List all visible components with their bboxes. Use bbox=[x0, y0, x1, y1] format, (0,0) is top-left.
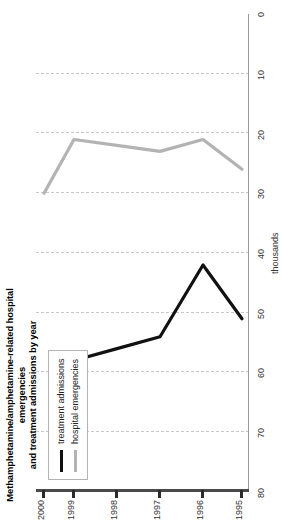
value-tick-label-50: 50 bbox=[256, 309, 266, 319]
value-tick-label-30: 30 bbox=[256, 189, 266, 199]
legend-item-hospital-emergencies[interactable]: hospital emergencies bbox=[68, 358, 82, 472]
chart-title-line-1: Methamphetamine/amphetamine-related hosp… bbox=[4, 288, 27, 501]
tick-1999 bbox=[72, 490, 75, 498]
tick-1997 bbox=[158, 490, 161, 498]
series-line-treatment-admissions bbox=[74, 265, 242, 361]
value-tick-label-80: 80 bbox=[256, 488, 266, 498]
rotated-figure: Methamphetamine/amphetamine-related hosp… bbox=[0, 0, 282, 526]
value-tick-label-60: 60 bbox=[256, 368, 266, 378]
category-tick-label-1997: 1997 bbox=[152, 500, 162, 520]
category-tick-label-1998: 1998 bbox=[109, 500, 119, 520]
legend-label-hospital-emergencies: hospital emergencies bbox=[70, 359, 80, 444]
legend-line-swatch-icon-dark bbox=[60, 450, 63, 472]
value-tick-label-10: 10 bbox=[256, 70, 266, 80]
tick-2000 bbox=[42, 490, 45, 498]
category-tick-label-1996: 1996 bbox=[195, 500, 205, 520]
legend-item-treatment-admissions[interactable]: treatment admissions bbox=[54, 358, 68, 472]
tick-1995 bbox=[240, 490, 243, 498]
value-tick-label-0: 0 bbox=[256, 12, 266, 17]
value-tick-label-20: 20 bbox=[256, 130, 266, 140]
value-axis-caption: thousands bbox=[270, 232, 280, 274]
chart-title: Methamphetamine/amphetamine-related hosp… bbox=[4, 270, 39, 520]
legend-line-swatch-icon-light bbox=[74, 450, 77, 472]
category-tick-label-1999: 1999 bbox=[66, 500, 76, 520]
series-line-hospital-emergencies bbox=[44, 140, 242, 194]
tick-1996 bbox=[201, 490, 204, 498]
legend-label-treatment-admissions: treatment admissions bbox=[56, 358, 66, 444]
chart-canvas: Methamphetamine/amphetamine-related hosp… bbox=[0, 0, 282, 526]
plot-area: treatment admissions hospital emergencie… bbox=[36, 14, 249, 492]
tick-1998 bbox=[115, 490, 118, 498]
category-axis-line bbox=[36, 489, 249, 492]
value-tick-label-40: 40 bbox=[256, 249, 266, 259]
value-tick-label-70: 70 bbox=[256, 428, 266, 438]
legend: treatment admissions hospital emergencie… bbox=[48, 350, 88, 480]
category-tick-label-2000: 2000 bbox=[36, 500, 46, 520]
category-tick-label-1995: 1995 bbox=[234, 500, 244, 520]
